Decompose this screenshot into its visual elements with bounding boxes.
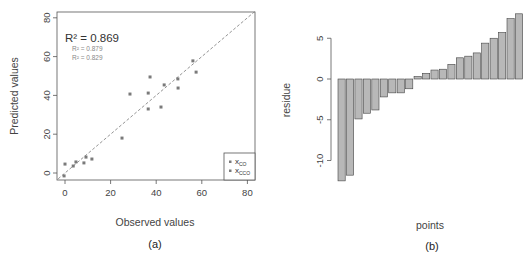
- residual-bar: [473, 53, 480, 79]
- residual-bar: [389, 79, 396, 93]
- residual-bar: [456, 58, 463, 79]
- r2-sub2-label: R² = 0.829: [72, 54, 103, 61]
- data-point: [163, 83, 166, 86]
- r2-main-label: R² = 0.869: [65, 32, 119, 44]
- data-point: [147, 107, 150, 110]
- residual-bar: [406, 79, 413, 89]
- y-tick-label: -10: [314, 154, 325, 168]
- data-point: [147, 92, 150, 95]
- residual-bar: [482, 43, 489, 79]
- residual-bar: [423, 73, 430, 79]
- data-point: [176, 77, 179, 80]
- data-point: [64, 163, 67, 166]
- data-point: [177, 87, 180, 90]
- data-point: [195, 71, 198, 74]
- residual-bar: [490, 38, 497, 79]
- y-tick-label: 40: [41, 90, 52, 101]
- residual-bar: [346, 79, 353, 175]
- data-point: [128, 93, 131, 96]
- caption-b: (b): [412, 240, 452, 252]
- residual-bar: [338, 79, 345, 181]
- x-tick-label: 20: [105, 187, 116, 198]
- residual-bar: [431, 70, 438, 79]
- data-point: [84, 156, 87, 159]
- residual-bar: [397, 79, 404, 93]
- data-point: [121, 137, 124, 140]
- residual-bar: [448, 64, 455, 79]
- legend-marker: [229, 170, 232, 173]
- caption-a: (a): [135, 238, 175, 250]
- residual-bar: [507, 19, 514, 79]
- y-tick-label: 0: [314, 76, 325, 81]
- y-tick-label: 80: [41, 13, 52, 24]
- data-point: [63, 174, 66, 177]
- residual-bar: [363, 79, 370, 113]
- y-tick-label: 60: [41, 51, 52, 62]
- data-point: [72, 165, 75, 168]
- residual-bar: [355, 79, 362, 119]
- x-axis-title-a: Observed values: [95, 216, 215, 228]
- y-axis-title-b: residue: [280, 83, 292, 118]
- residual-bar: [465, 56, 472, 79]
- x-tick-label: 80: [242, 187, 253, 198]
- y-tick-label: -5: [314, 116, 325, 124]
- x-tick-label: 40: [151, 187, 162, 198]
- panel-b: -10-505residue points (b): [265, 0, 531, 259]
- residual-bar: [372, 79, 379, 110]
- y-axis-title-a: Predicted values: [8, 57, 20, 135]
- data-point: [74, 160, 77, 163]
- x-tick-label: 60: [197, 187, 208, 198]
- residual-bar: [499, 33, 506, 79]
- data-point: [191, 59, 194, 62]
- data-point: [149, 75, 152, 78]
- y-tick-label: 20: [41, 129, 52, 140]
- y-tick-label: 0: [41, 170, 52, 175]
- legend-marker: [229, 161, 232, 164]
- data-point: [90, 158, 93, 161]
- residual-bar: [439, 69, 446, 79]
- x-tick-label: 0: [62, 187, 67, 198]
- residual-bar: [414, 77, 421, 79]
- y-tick-label: 5: [314, 36, 325, 41]
- residual-bar: [380, 79, 387, 97]
- residual-bar: [515, 14, 522, 79]
- data-point: [159, 106, 162, 109]
- legend: xCOxCCO: [224, 153, 255, 180]
- data-point: [82, 161, 85, 164]
- x-axis-title-b: points: [395, 219, 465, 231]
- panel-a: 020406080020406080Predicted valuesR² = 0…: [0, 0, 265, 259]
- r2-sub1-label: R² = 0.879: [72, 45, 103, 52]
